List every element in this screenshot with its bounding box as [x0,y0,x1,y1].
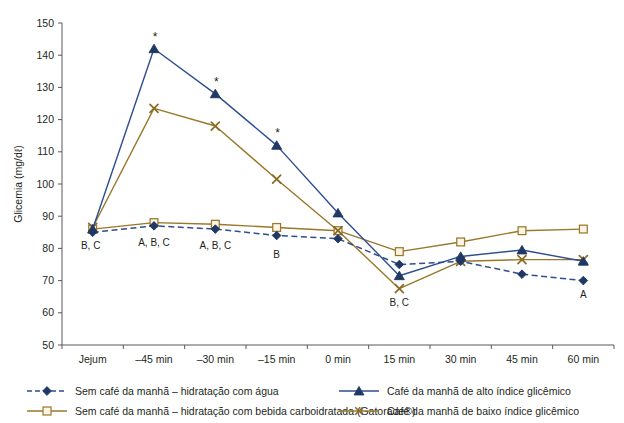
y-axis-tick-label: 130 [36,81,54,93]
y-axis-title: Glicemia (mg/dℓ) [12,145,24,223]
legend-label-agua: Sem café da manhã – hidratação com água [75,385,279,397]
data-point-annotation: B, C [390,297,409,308]
chart-axes: 5060708090100110120130140150Jejum–45 min… [12,17,614,365]
line-chart-svg: 5060708090100110120130140150Jejum–45 min… [0,0,624,378]
legend-column-right: Café da manhã de alto índice glicêmico C… [338,382,579,422]
series-baixo [89,104,588,292]
y-axis-tick-label: 100 [36,178,54,190]
chart-figure: 5060708090100110120130140150Jejum–45 min… [0,0,624,423]
legend-label-alto-ig: Café da manhã de alto índice glicêmico [387,385,571,397]
x-axis-tick-label: –30 min [197,353,235,365]
data-point-annotation: A, B, C [199,240,231,251]
legend-key-diamond-dashed-icon [26,384,68,398]
chart-legend: Sem café da manhã – hidratação com água … [0,382,624,423]
y-axis-tick-label: 70 [42,274,54,286]
y-axis-tick-label: 120 [36,113,54,125]
y-axis-tick-label: 140 [36,49,54,61]
legend-key-square-solid-icon [26,404,68,418]
data-point-annotation: A, B, C [138,237,170,248]
legend-item-baixo-ig[interactable]: Café da manhã de baixo índice glicêmico [338,402,579,419]
y-axis-tick-label: 50 [42,339,54,351]
x-axis-tick-label: Jejum [79,353,107,365]
legend-label-baixo-ig: Café da manhã de baixo índice glicêmico [387,405,579,417]
x-axis-tick-label: 45 min [506,353,538,365]
plot-area: 5060708090100110120130140150Jejum–45 min… [0,0,624,378]
y-axis-tick-label: 150 [36,17,54,29]
chart-labels-layer: B, CA, B, CA, B, CBB, CA [81,237,587,308]
y-axis-tick-label: 110 [37,145,54,157]
significance-marker: * [275,126,280,140]
y-axis-tick-label: 80 [42,242,54,254]
x-axis-tick-label: 60 min [568,353,600,365]
x-axis-tick-label: –15 min [258,353,296,365]
y-axis-tick-label: 60 [42,306,54,318]
x-axis-tick-label: –45 min [135,353,173,365]
significance-marker: * [214,75,219,89]
chart-series-layer [88,44,589,292]
x-axis-tick-label: 0 min [325,353,351,365]
y-axis-tick-label: 90 [42,210,54,222]
legend-item-alto-ig[interactable]: Café da manhã de alto índice glicêmico [338,382,579,399]
data-point-annotation: B [273,249,280,260]
x-axis-tick-label: 30 min [445,353,477,365]
significance-marker: * [153,30,158,44]
legend-key-triangle-solid-icon [338,384,380,398]
data-point-annotation: A [580,289,587,300]
legend-key-cross-solid-icon [338,404,380,418]
x-axis-tick-label: 15 min [384,353,416,365]
data-point-annotation: B, C [81,240,100,251]
